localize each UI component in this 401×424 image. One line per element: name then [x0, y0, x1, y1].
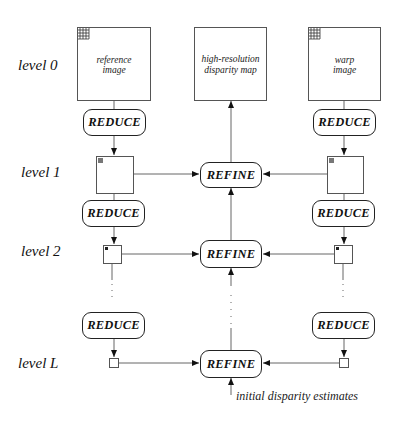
warp-image-text-2: image	[309, 65, 380, 76]
disparity-map-text-2: disparity map	[195, 65, 266, 76]
pixel-grid-icon	[309, 28, 321, 40]
disparity-map-box: high-resolution disparity map	[194, 27, 267, 101]
refine-level-1: REFINE	[200, 162, 262, 188]
level-L-label: level L	[18, 355, 58, 372]
disparity-map-text-1: high-resolution	[195, 54, 266, 65]
reduce-left-0: REDUCE	[83, 109, 146, 136]
reduce-right-1: REDUCE	[312, 200, 375, 227]
warp-level-1-box	[327, 156, 364, 194]
reduce-right-0: REDUCE	[313, 109, 376, 136]
reference-level-L-box	[109, 358, 119, 368]
level-0-label: level 0	[18, 57, 58, 74]
reference-level-2-box	[103, 245, 122, 264]
refine-level-L: REFINE	[200, 350, 262, 378]
level-2-label: level 2	[21, 243, 61, 260]
reduce-left-1: REDUCE	[82, 200, 145, 227]
warp-image-box: warp image	[308, 27, 381, 101]
reference-image-text-2: image	[78, 65, 150, 76]
warp-level-2-box	[334, 245, 353, 264]
pixel-grid-icon	[78, 28, 90, 40]
pixel-block-icon	[336, 247, 339, 250]
reference-level-1-box	[96, 156, 134, 194]
pixel-block-icon	[329, 158, 334, 163]
initial-disparity-note: initial disparity estimates	[236, 389, 358, 404]
refine-level-2: REFINE	[200, 240, 262, 268]
reduce-left-L: REDUCE	[82, 312, 145, 339]
warp-level-L-box	[339, 358, 349, 368]
reduce-right-L: REDUCE	[312, 312, 375, 339]
pixel-block-icon	[98, 158, 103, 163]
reference-image-box: reference image	[77, 27, 151, 101]
pixel-block-icon	[105, 247, 108, 250]
level-1-label: level 1	[21, 164, 61, 181]
